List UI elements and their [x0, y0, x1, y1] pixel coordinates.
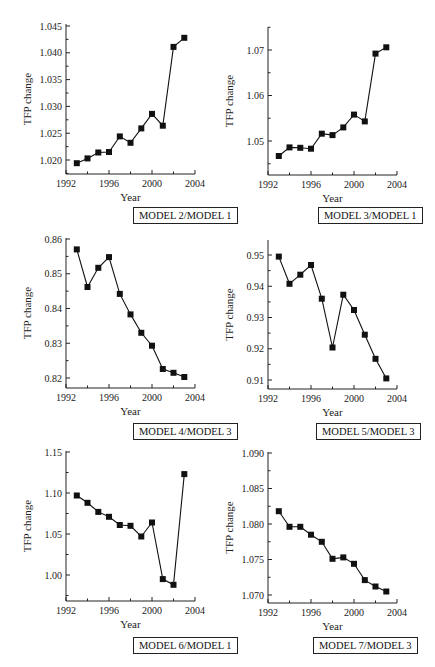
y-tick-label: 0.91	[247, 375, 265, 386]
x-tick-label: 2000	[344, 179, 364, 190]
chart-5-model-label: MODEL 6/MODEL 1	[133, 637, 238, 654]
data-point-marker	[383, 589, 389, 595]
x-axis-title: Year	[120, 618, 141, 630]
data-point-marker	[95, 150, 101, 156]
x-tick-label: 1996	[301, 393, 321, 404]
chart-2-model-label: MODEL 3/MODEL 1	[318, 207, 423, 224]
y-tick-label: 0.86	[45, 234, 63, 245]
x-tick-label: 1992	[258, 607, 278, 618]
y-tick-label: 0.94	[247, 281, 265, 292]
data-point-marker	[351, 307, 357, 313]
data-point-marker	[138, 125, 144, 131]
figure-canvas: 19921996200020041.0201.0251.0301.0351.04…	[0, 0, 435, 667]
data-point-marker	[171, 44, 177, 50]
x-tick-label: 1996	[301, 607, 321, 618]
x-axis-title: Year	[120, 405, 141, 417]
y-tick-label: 1.080	[242, 519, 265, 530]
data-point-marker	[373, 51, 379, 57]
data-point-marker	[330, 132, 336, 138]
x-tick-label: 1992	[258, 179, 278, 190]
data-point-marker	[85, 155, 91, 161]
y-tick-label: 0.93	[247, 312, 265, 323]
data-point-marker	[340, 292, 346, 298]
y-tick-label: 0.83	[45, 338, 63, 349]
data-point-marker	[287, 144, 293, 150]
data-point-marker	[106, 254, 112, 260]
data-point-marker	[171, 582, 177, 588]
series-line	[77, 474, 185, 585]
data-point-marker	[276, 508, 282, 514]
y-tick-label: 1.035	[40, 74, 63, 85]
data-point-marker	[117, 133, 123, 139]
x-tick-label: 2004	[387, 179, 407, 190]
data-point-marker	[138, 330, 144, 336]
data-point-marker	[128, 523, 134, 529]
x-tick-label: 1996	[99, 178, 119, 189]
y-axis-title: TFP change	[21, 73, 33, 126]
y-tick-label: 1.090	[242, 448, 265, 459]
x-tick-label: 1992	[56, 392, 76, 403]
data-point-marker	[383, 375, 389, 381]
data-point-marker	[373, 584, 379, 590]
data-point-marker	[181, 374, 187, 380]
y-tick-label: 1.070	[242, 590, 265, 601]
data-point-marker	[74, 160, 80, 166]
data-point-marker	[181, 471, 187, 477]
data-point-marker	[308, 262, 314, 268]
data-point-marker	[74, 493, 80, 499]
y-tick-label: 1.075	[242, 554, 265, 565]
y-axis-title: TFP change	[223, 501, 235, 554]
data-point-marker	[383, 44, 389, 50]
data-point-marker	[297, 272, 303, 278]
y-tick-label: 1.07	[247, 45, 265, 56]
series-line	[279, 511, 387, 591]
data-point-marker	[149, 520, 155, 526]
data-point-marker	[308, 532, 314, 538]
data-point-marker	[308, 146, 314, 152]
data-point-marker	[95, 265, 101, 271]
data-point-marker	[149, 111, 155, 117]
data-point-marker	[106, 514, 112, 520]
data-point-marker	[297, 145, 303, 151]
x-tick-label: 1996	[99, 392, 119, 403]
data-point-marker	[319, 296, 325, 302]
data-point-marker	[362, 577, 368, 583]
series-line	[279, 257, 387, 379]
data-point-marker	[351, 112, 357, 118]
data-point-marker	[138, 534, 144, 540]
x-tick-label: 2004	[387, 393, 407, 404]
y-tick-label: 1.020	[40, 155, 63, 166]
x-tick-label: 1992	[258, 393, 278, 404]
x-tick-label: 1992	[56, 178, 76, 189]
data-point-marker	[160, 576, 166, 582]
x-tick-label: 2000	[142, 605, 162, 616]
data-point-marker	[330, 345, 336, 351]
data-point-marker	[319, 131, 325, 137]
data-point-marker	[160, 123, 166, 129]
chart-6-model-label: MODEL 7/MODEL 3	[313, 637, 418, 654]
data-point-marker	[297, 524, 303, 530]
data-point-marker	[85, 500, 91, 506]
y-tick-label: 1.05	[247, 136, 265, 147]
data-point-marker	[95, 509, 101, 515]
x-tick-label: 2004	[387, 607, 407, 618]
x-tick-label: 2004	[185, 605, 205, 616]
data-point-marker	[181, 35, 187, 41]
x-tick-label: 2000	[142, 178, 162, 189]
chart-5: 19921996200020041.001.051.101.15YearTFP …	[21, 447, 205, 631]
y-tick-label: 0.85	[45, 268, 63, 279]
x-axis-title: Year	[120, 191, 141, 203]
data-point-marker	[340, 124, 346, 130]
y-axis-title: TFP change	[21, 500, 33, 553]
data-point-marker	[373, 356, 379, 362]
y-tick-label: 1.030	[40, 101, 63, 112]
y-tick-label: 1.15	[45, 447, 63, 458]
x-tick-label: 2004	[185, 392, 205, 403]
x-tick-label: 2000	[344, 607, 364, 618]
y-tick-label: 1.00	[45, 570, 63, 581]
y-tick-label: 1.040	[40, 47, 63, 58]
data-point-marker	[117, 522, 123, 528]
x-axis-title: Year	[322, 192, 343, 204]
data-point-marker	[362, 118, 368, 124]
x-tick-label: 2004	[185, 178, 205, 189]
